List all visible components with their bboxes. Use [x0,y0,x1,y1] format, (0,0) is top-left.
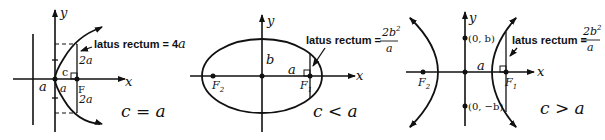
y-axis-label: y [266,13,275,28]
y-axis-label: y [468,10,477,25]
center-point [463,70,468,75]
focus-2-point [421,70,426,75]
vertex-bottom-label: (0, −b) [468,101,503,112]
x-axis-label: x [537,64,545,79]
vertex-top-label: (0, b) [468,33,495,44]
condition-label: c < a [313,101,358,121]
focus-1-point [504,70,509,75]
frac-numerator: 2b [381,26,396,39]
b-label: b [266,52,274,67]
focus-2-label: F2 [211,79,225,94]
a-label: a [288,62,296,77]
upper-half-label: 2a [78,54,93,67]
frac-denominator: a [587,41,594,54]
c-label: c [62,66,68,79]
x-axis-label: x [125,74,133,89]
center-point [260,74,265,79]
latus-label: latus rectum = [512,34,587,46]
x-axis-label: x [356,68,364,83]
focus-1-point [308,74,313,79]
vertex-bottom-point [463,104,468,109]
a-left-label: a [39,79,47,94]
svg-text:latus rectum = 4a: latus rectum = 4a [94,36,186,51]
ellipse-figure: y x latus rectum = 2b2 a b a F2 F1 c < a [190,13,401,132]
condition-label: c = a [121,101,166,121]
focus-2-label: F2 [417,76,431,91]
latus-label: latus rectum = 4 [94,38,179,50]
condition-label: c > a [540,98,585,118]
svg-text:2b2: 2b2 [381,25,401,39]
focus-1-label: F1 [504,76,517,91]
parabola-figure: y x latus rectum = 4a 2a 2a c a a F c = … [13,5,186,132]
frac-numerator: 2b [582,25,597,38]
focus-label: F [78,84,85,95]
focus-2-point [211,74,216,79]
vertex-point [53,77,58,82]
a-label: a [477,58,485,73]
latus-label: latus rectum = [306,34,381,46]
frac-denominator: a [386,42,393,55]
svg-text:2b2: 2b2 [582,24,602,38]
vertex-top-point [463,36,468,41]
y-axis-label: y [59,5,68,20]
a-right-label: a [60,82,67,95]
focus-point [75,77,80,82]
hyperbola-figure: y x (0, b) (0, −b) latus rectum = 2b2 a … [406,10,602,127]
